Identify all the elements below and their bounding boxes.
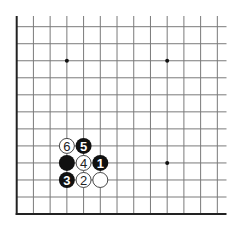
star-point-icon <box>65 59 69 63</box>
star-point-icon <box>165 161 169 165</box>
white-stone-icon <box>93 172 108 187</box>
white-stone-2: 2 <box>76 172 91 187</box>
move-number: 5 <box>80 139 87 154</box>
move-number: 6 <box>63 139 70 154</box>
star-point-icon <box>165 59 169 63</box>
black-stone-icon <box>59 155 75 171</box>
black-stone-1: 1 <box>92 155 108 171</box>
grid-lines <box>16 16 227 215</box>
move-number: 3 <box>63 173 70 188</box>
move-number: 1 <box>97 156 104 171</box>
white-stone-4: 4 <box>76 155 91 170</box>
black-stone-5: 5 <box>76 138 92 154</box>
black-stone <box>59 155 75 171</box>
white-stone-6: 6 <box>59 138 74 153</box>
black-stone-3: 3 <box>59 172 75 188</box>
move-number: 2 <box>80 173 87 188</box>
white-stone <box>93 172 108 187</box>
go-board: 654132 <box>0 0 244 227</box>
move-number: 4 <box>80 156 87 171</box>
